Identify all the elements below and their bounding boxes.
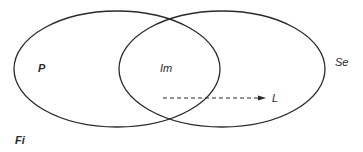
figure-label-fi: Fi — [15, 135, 25, 146]
arrow-head-icon — [258, 96, 266, 101]
label-intersection-im: Im — [160, 63, 172, 74]
set-se-ellipse — [119, 11, 325, 127]
label-arrow-l: L — [272, 93, 278, 104]
label-se: Se — [335, 57, 348, 68]
label-p: P — [38, 63, 45, 74]
venn-diagram — [0, 0, 363, 152]
